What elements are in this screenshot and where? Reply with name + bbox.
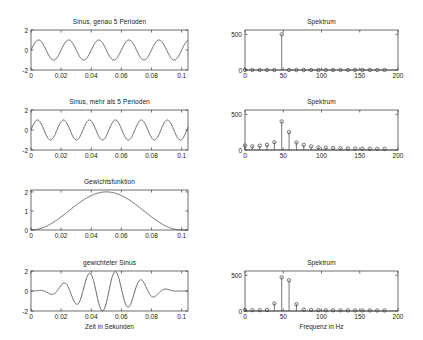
figure-canvas: Sinus, genau 5 Perioden00.020.040.060.08…	[0, 0, 423, 340]
stem-series-spektrum-gewichtet	[243, 276, 386, 312]
xaxis-label-spektrum-gewichtet: Frequenz in Hz	[245, 323, 398, 330]
ytick-label-spektrum-gewichtet-1: 500	[215, 272, 242, 279]
chart-title-spektrum-gewichtet: Spektrum	[245, 259, 398, 266]
plot-area-spektrum-gewichtet	[244, 270, 399, 312]
chart-panel-spektrum-gewichtet: Spektrum0501001502000500Frequenz in Hz	[0, 0, 423, 340]
xtick-label-spektrum-gewichtet-1: 50	[280, 313, 287, 320]
xtick-label-spektrum-gewichtet-0: 0	[243, 313, 247, 320]
xtick-label-spektrum-gewichtet-3: 150	[354, 313, 365, 320]
xtick-label-spektrum-gewichtet-2: 100	[316, 313, 327, 320]
ytick-label-spektrum-gewichtet-0: 0	[215, 308, 242, 315]
xtick-label-spektrum-gewichtet-4: 200	[393, 313, 404, 320]
